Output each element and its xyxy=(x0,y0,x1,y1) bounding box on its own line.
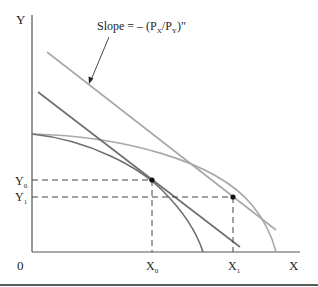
slope-prefix: Slope = – (P xyxy=(97,19,157,33)
x1-label-sub: 1 xyxy=(237,267,241,275)
y0-label-sub: 0 xyxy=(24,182,28,190)
slope-annotation: Slope = – (PX/PY)" xyxy=(97,19,186,35)
origin-label: 0 xyxy=(17,258,24,273)
y1-label-base: Y xyxy=(15,190,24,204)
expanded-production-possibility-frontier xyxy=(32,134,276,252)
x0-label: X0 xyxy=(146,259,159,275)
ppf-diagram: Y X 0 Y0 Y1 X0 X1 Slope = – (PX/PY)" xyxy=(0,0,318,287)
y1-label-sub: 1 xyxy=(24,198,28,206)
slope-suffix: )" xyxy=(177,19,186,33)
slope-mid: /P xyxy=(162,19,172,33)
y0-label: Y0 xyxy=(15,174,28,190)
annotation-arrow-head-icon xyxy=(89,77,94,85)
y0-label-base: Y xyxy=(15,174,24,188)
x-axis-label: X xyxy=(289,258,299,273)
initial-production-possibility-frontier xyxy=(32,134,203,252)
x1-label-base: X xyxy=(228,259,237,273)
initial-price-line xyxy=(38,92,240,247)
new-price-line xyxy=(47,52,276,230)
x0-label-base: X xyxy=(146,259,155,273)
annotation-arrow-shaft xyxy=(91,37,109,80)
equilibrium-point-0 xyxy=(149,177,154,182)
y1-label: Y1 xyxy=(15,190,28,206)
x0-label-sub: 0 xyxy=(155,267,159,275)
equilibrium-point-1 xyxy=(230,194,235,199)
x1-label: X1 xyxy=(228,259,241,275)
y-axis-label: Y xyxy=(16,12,26,27)
